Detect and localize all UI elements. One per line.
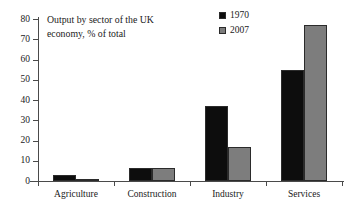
bar-agriculture-2007 <box>76 179 99 181</box>
x-axis-category-label: Agriculture <box>54 190 98 200</box>
bar-industry-2007 <box>228 147 251 181</box>
x-axis-tick <box>114 181 115 186</box>
bar-services-1970 <box>281 70 304 181</box>
y-axis-tick-label: 10 <box>21 157 31 167</box>
x-axis-tick <box>266 181 267 186</box>
x-axis-category-label: Construction <box>127 190 176 200</box>
y-axis-tick-label: 0 <box>25 177 30 187</box>
y-axis-tick-label: 40 <box>21 96 31 106</box>
y-axis-tick-label: 70 <box>21 35 31 45</box>
y-axis-tick-label: 20 <box>21 136 31 146</box>
bar-construction-2007 <box>152 168 175 181</box>
y-axis-tick-label: 50 <box>21 76 31 86</box>
x-axis-category-label: Industry <box>212 190 244 200</box>
bar-industry-1970 <box>205 106 228 181</box>
x-axis-category-label: Services <box>288 190 320 200</box>
y-axis-tick-label: 60 <box>21 55 31 65</box>
bar-services-2007 <box>304 25 327 181</box>
bar-agriculture-1970 <box>53 175 76 181</box>
bar-construction-1970 <box>129 168 152 181</box>
x-axis-tick <box>342 181 343 186</box>
y-axis-tick-label: 30 <box>21 116 31 126</box>
bar-chart: Output by sector of the UK economy, % of… <box>0 0 348 220</box>
y-axis-tick-label: 80 <box>21 15 31 25</box>
x-axis-line <box>30 181 344 182</box>
x-axis-tick <box>190 181 191 186</box>
plot-area <box>38 19 342 181</box>
x-axis-tick <box>38 181 39 186</box>
